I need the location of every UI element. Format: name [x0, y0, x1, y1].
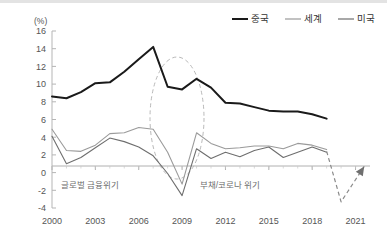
top-rule: [0, 0, 387, 3]
y-tick-label: 14: [36, 44, 46, 54]
x-tick-label: 2015: [259, 216, 279, 226]
data-series-lines: [52, 47, 327, 196]
y-tick-label: 12: [36, 62, 46, 72]
forecast-dashed-path: [327, 151, 365, 201]
legend-label-미국: 미국: [357, 13, 375, 24]
y-tick-label: 2: [41, 150, 46, 160]
legend-label-세계: 세계: [304, 13, 322, 24]
y-axis-tick-labels: 1614121086420-2-4: [36, 26, 46, 213]
x-tick-label: 2000: [42, 216, 62, 226]
legend-label-중국: 중국: [251, 13, 269, 24]
y-tick-label: 8: [41, 97, 46, 107]
x-axis-tick-labels: 20002003200620092012201520182021: [42, 216, 366, 226]
x-tick-label: 2003: [85, 216, 105, 226]
y-tick-label: 4: [41, 133, 46, 143]
y-tick-label: 10: [36, 79, 46, 89]
series-line-세계: [52, 127, 327, 184]
chart-container: (%) 중국세계미국 1614121086420-2-4 글로벌 금융위기부채/…: [0, 0, 387, 239]
forecast-line: [327, 151, 365, 201]
y-tick-label: -4: [38, 203, 46, 213]
y-tick-label: -2: [38, 186, 46, 196]
crisis-highlight-ellipse: [150, 57, 204, 179]
y-axis-tick-marks: [52, 31, 56, 208]
x-tick-label: 2021: [346, 216, 366, 226]
x-axis-tick-marks: [52, 166, 356, 170]
y-axis-unit-label: (%): [34, 16, 47, 26]
y-tick-label: 0: [41, 168, 46, 178]
y-tick-label: 16: [36, 26, 46, 36]
series-line-중국: [52, 47, 327, 119]
y-tick-label: 6: [41, 115, 46, 125]
x-tick-label: 2018: [302, 216, 322, 226]
annotation-debt-corona-crisis: 부채/코로나 위기: [200, 180, 261, 190]
chart-annotations: 글로벌 금융위기부채/코로나 위기: [61, 180, 261, 190]
x-tick-label: 2012: [215, 216, 235, 226]
x-tick-label: 2006: [129, 216, 149, 226]
annotation-global-financial-crisis: 글로벌 금융위기: [61, 180, 119, 190]
chart-legend: 중국세계미국: [232, 13, 375, 24]
forecast-arrow-head-icon: [356, 166, 364, 176]
economic-growth-line-chart: (%) 중국세계미국 1614121086420-2-4 글로벌 금융위기부채/…: [0, 0, 387, 239]
x-tick-label: 2009: [172, 216, 192, 226]
